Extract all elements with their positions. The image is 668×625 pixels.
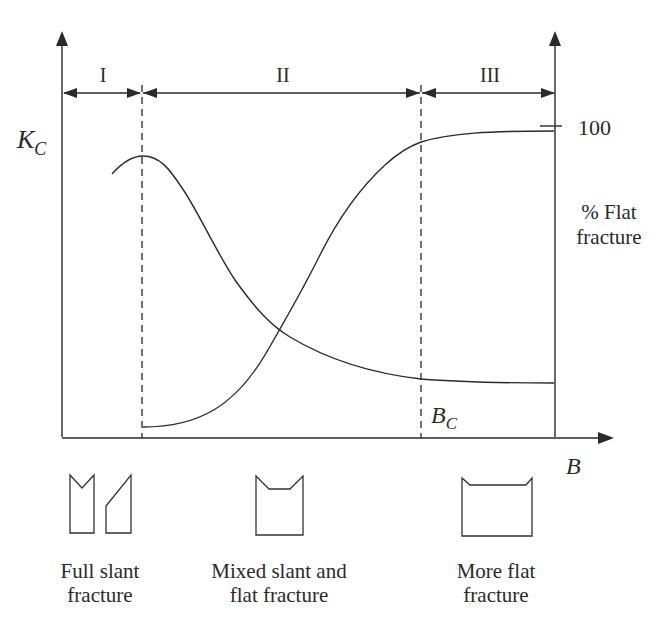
more-flat-specimen-icon xyxy=(462,478,532,536)
kc-curve xyxy=(112,156,554,383)
left-axis-arrowhead xyxy=(56,31,68,46)
b-axis-label: B xyxy=(566,453,581,479)
caption-full-slant-line1: Full slant xyxy=(61,559,140,583)
tick-100-label: 100 xyxy=(578,115,611,140)
region-III-label: III xyxy=(480,64,500,86)
right-axis-label-line2: fracture xyxy=(576,225,641,249)
right-axis-label-line1: % Flat xyxy=(581,200,637,224)
region-arrows xyxy=(63,88,555,98)
region-II-label: II xyxy=(276,64,289,86)
caption-full-slant-line2: fracture xyxy=(67,583,132,607)
fracture-diagram: I II III KC 100 % Flat fracture BC B Ful… xyxy=(0,0,668,625)
caption-more-flat-line1: More flat xyxy=(457,559,536,583)
caption-mixed-line1: Mixed slant and xyxy=(211,559,347,583)
caption-more-flat-line2: fracture xyxy=(463,583,528,607)
kc-axis-label: KC xyxy=(16,125,47,159)
right-axis-arrowhead xyxy=(549,31,561,46)
mixed-specimen-icon xyxy=(256,476,303,535)
caption-mixed-line2: flat fracture xyxy=(230,583,329,607)
region-I-label: I xyxy=(100,64,107,86)
bc-label: BC xyxy=(431,402,458,433)
x-axis-arrowhead xyxy=(598,432,614,444)
full-slant-specimen-icon xyxy=(70,475,131,533)
